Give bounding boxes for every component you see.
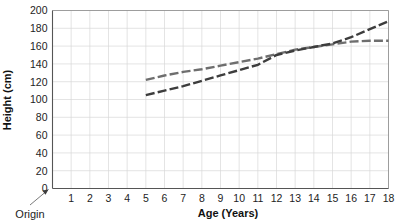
x-axis-title: Age (Years) [198,207,259,219]
y-tick-label: 80 [36,111,48,123]
x-tick-label: 1 [68,192,74,204]
x-tick-labels: 123456789101112131415161718 [68,192,394,204]
x-tick-label: 5 [143,192,149,204]
x-tick-label: 3 [106,192,112,204]
y-tick-label: 40 [36,147,48,159]
x-tick-label: 14 [308,192,320,204]
x-tick-label: 13 [289,192,301,204]
x-tick-label: 2 [87,192,93,204]
series-layer [146,21,389,95]
x-tick-label: 11 [252,192,263,204]
origin-label: Origin [15,208,44,220]
y-tick-label: 200 [30,4,48,16]
x-tick-label: 9 [218,192,224,204]
growth-chart: 020406080100120140160180200 123456789101… [0,0,399,224]
y-tick-label: 60 [36,129,48,141]
y-tick-labels: 020406080100120140160180200 [30,4,48,194]
chart-canvas: 020406080100120140160180200 123456789101… [0,0,399,224]
x-tick-label: 6 [162,192,168,204]
gridlines [53,11,389,189]
origin-annotation: Origin [15,190,48,221]
x-tick-label: 17 [364,192,376,204]
y-tick-label: 20 [36,165,48,177]
x-tick-label: 16 [345,192,357,204]
y-tick-label: 120 [30,76,48,88]
x-tick-label: 8 [199,192,205,204]
x-tick-label: 10 [233,192,245,204]
y-axis-title: Height (cm) [1,69,13,130]
x-tick-label: 18 [383,192,395,204]
series-line-series-lower [146,21,389,95]
y-tick-label: 180 [30,22,48,34]
y-tick-label: 140 [30,58,48,70]
y-tick-label: 100 [30,93,48,105]
x-tick-label: 4 [124,192,130,204]
x-tick-label: 15 [327,192,339,204]
x-tick-label: 7 [180,192,186,204]
y-tick-label: 160 [30,40,48,52]
x-tick-label: 12 [271,192,283,204]
